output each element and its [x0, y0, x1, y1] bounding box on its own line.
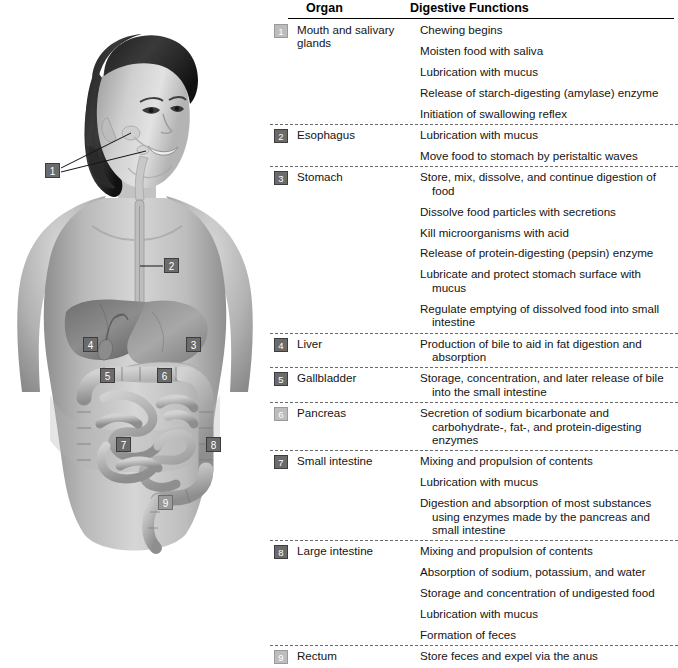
- function-item: Moisten food with saliva: [420, 44, 674, 57]
- function-item: Formation of feces: [420, 628, 674, 641]
- organ-cell: 5 Gallbladder: [272, 371, 420, 386]
- organ-cell: 9 Rectum: [272, 649, 420, 664]
- function-item: Lubrication with mucus: [420, 65, 674, 78]
- function-item: Kill microorganisms with acid: [420, 226, 674, 239]
- organ-label: Rectum: [297, 649, 337, 662]
- table-row: 5 Gallbladder Storage, concentration, an…: [270, 368, 678, 403]
- organ-label: Esophagus: [297, 128, 355, 141]
- organ-label: Mouth and salivary glands: [297, 23, 420, 50]
- header-rule: [288, 18, 674, 19]
- organ-cell: 3 Stomach: [272, 170, 420, 185]
- organ-cell: 2 Esophagus: [272, 128, 420, 143]
- row-badge: 5: [274, 372, 288, 386]
- function-item: Lubrication with mucus: [420, 475, 674, 488]
- figure-callout-8[interactable]: 8: [206, 437, 221, 452]
- digestive-functions-table: Organ Digestive Functions 1 Mouth and sa…: [270, 0, 678, 596]
- functions-cell: Chewing begins Moisten food with saliva …: [420, 23, 674, 120]
- organ-cell: 7 Small intestine: [272, 454, 420, 469]
- organ-label: Small intestine: [297, 454, 372, 467]
- functions-cell: Mixing and propulsion of contents Absorp…: [420, 544, 674, 641]
- table-header-row: Organ Digestive Functions: [270, 0, 678, 19]
- organ-label: Stomach: [297, 170, 343, 183]
- column-header-functions: Digestive Functions: [410, 1, 529, 15]
- function-item: Dissolve food particles with secretions: [420, 205, 674, 218]
- function-item: Secretion of sodium bicarbonate and carb…: [420, 406, 674, 446]
- function-item: Lubricate and protect stomach surface wi…: [420, 267, 674, 294]
- function-item: Storage and concentration of undigested …: [420, 586, 674, 599]
- row-badge: 4: [274, 338, 288, 352]
- function-item: Digestion and absorption of most substan…: [420, 496, 674, 536]
- table-row: 1 Mouth and salivary glands Chewing begi…: [270, 20, 678, 125]
- functions-cell: Store, mix, dissolve, and continue diges…: [420, 170, 674, 328]
- column-header-organ: Organ: [306, 1, 343, 15]
- figure-callout-9[interactable]: 9: [158, 495, 173, 510]
- organ-label: Pancreas: [297, 406, 346, 419]
- function-item: Regulate emptying of dissolved food into…: [420, 302, 674, 329]
- function-item: Store feces and expel via the anus: [420, 649, 674, 662]
- row-badge: 8: [274, 545, 288, 559]
- figure-callout-2[interactable]: 2: [164, 258, 179, 273]
- figure-callout-3[interactable]: 3: [186, 337, 201, 352]
- organ-cell: 1 Mouth and salivary glands: [272, 23, 420, 50]
- figure-callout-1[interactable]: 1: [45, 163, 60, 178]
- organ-label: Gallbladder: [297, 371, 356, 384]
- functions-cell: Lubrication with mucus Move food to stom…: [420, 128, 674, 162]
- figure-callout-7[interactable]: 7: [116, 437, 131, 452]
- table-row: 2 Esophagus Lubrication with mucus Move …: [270, 125, 678, 167]
- organ-label: Liver: [297, 337, 322, 350]
- functions-cell: Mixing and propulsion of contents Lubric…: [420, 454, 674, 536]
- table-body: 1 Mouth and salivary glands Chewing begi…: [270, 20, 678, 668]
- row-badge: 1: [274, 24, 288, 38]
- figure-callout-6[interactable]: 6: [157, 368, 172, 383]
- function-item: Chewing begins: [420, 23, 674, 36]
- anatomy-illustration-panel: 1 2 3 4 5 6 7 8 9: [0, 0, 270, 596]
- row-badge: 2: [274, 129, 288, 143]
- row-badge: 6: [274, 407, 288, 421]
- function-item: Move food to stomach by peristaltic wave…: [420, 149, 674, 162]
- function-item: Mixing and propulsion of contents: [420, 544, 674, 557]
- table-row: 3 Stomach Store, mix, dissolve, and cont…: [270, 167, 678, 333]
- row-badge: 9: [274, 650, 288, 664]
- functions-cell: Production of bile to aid in fat digesti…: [420, 337, 674, 364]
- function-item: Storage, concentration, and later releas…: [420, 371, 674, 398]
- organ-cell: 8 Large intestine: [272, 544, 420, 559]
- function-item: Initiation of swallowing reflex: [420, 107, 674, 120]
- functions-cell: Storage, concentration, and later releas…: [420, 371, 674, 398]
- organ-cell: 4 Liver: [272, 337, 420, 352]
- function-item: Lubrication with mucus: [420, 128, 674, 141]
- table-row: 9 Rectum Store feces and expel via the a…: [270, 646, 678, 668]
- functions-cell: Store feces and expel via the anus: [420, 649, 674, 662]
- table-row: 8 Large intestine Mixing and propulsion …: [270, 541, 678, 646]
- function-item: Production of bile to aid in fat digesti…: [420, 337, 674, 364]
- function-item: Mixing and propulsion of contents: [420, 454, 674, 467]
- function-item: Release of starch-digesting (amylase) en…: [420, 86, 674, 99]
- organ-label: Large intestine: [297, 544, 373, 557]
- figure-callout-4[interactable]: 4: [83, 337, 98, 352]
- table-row: 7 Small intestine Mixing and propulsion …: [270, 451, 678, 541]
- function-item: Store, mix, dissolve, and continue diges…: [420, 170, 674, 197]
- functions-cell: Secretion of sodium bicarbonate and carb…: [420, 406, 674, 446]
- row-badge: 3: [274, 171, 288, 185]
- table-row: 4 Liver Production of bile to aid in fat…: [270, 334, 678, 369]
- function-item: Absorption of sodium, potassium, and wat…: [420, 565, 674, 578]
- anatomy-figure-image: [0, 0, 270, 596]
- organ-cell: 6 Pancreas: [272, 406, 420, 421]
- table-row: 6 Pancreas Secretion of sodium bicarbona…: [270, 403, 678, 451]
- function-item: Lubrication with mucus: [420, 607, 674, 620]
- function-item: Release of protein-digesting (pepsin) en…: [420, 246, 674, 259]
- row-badge: 7: [274, 455, 288, 469]
- figure-callout-5[interactable]: 5: [100, 368, 115, 383]
